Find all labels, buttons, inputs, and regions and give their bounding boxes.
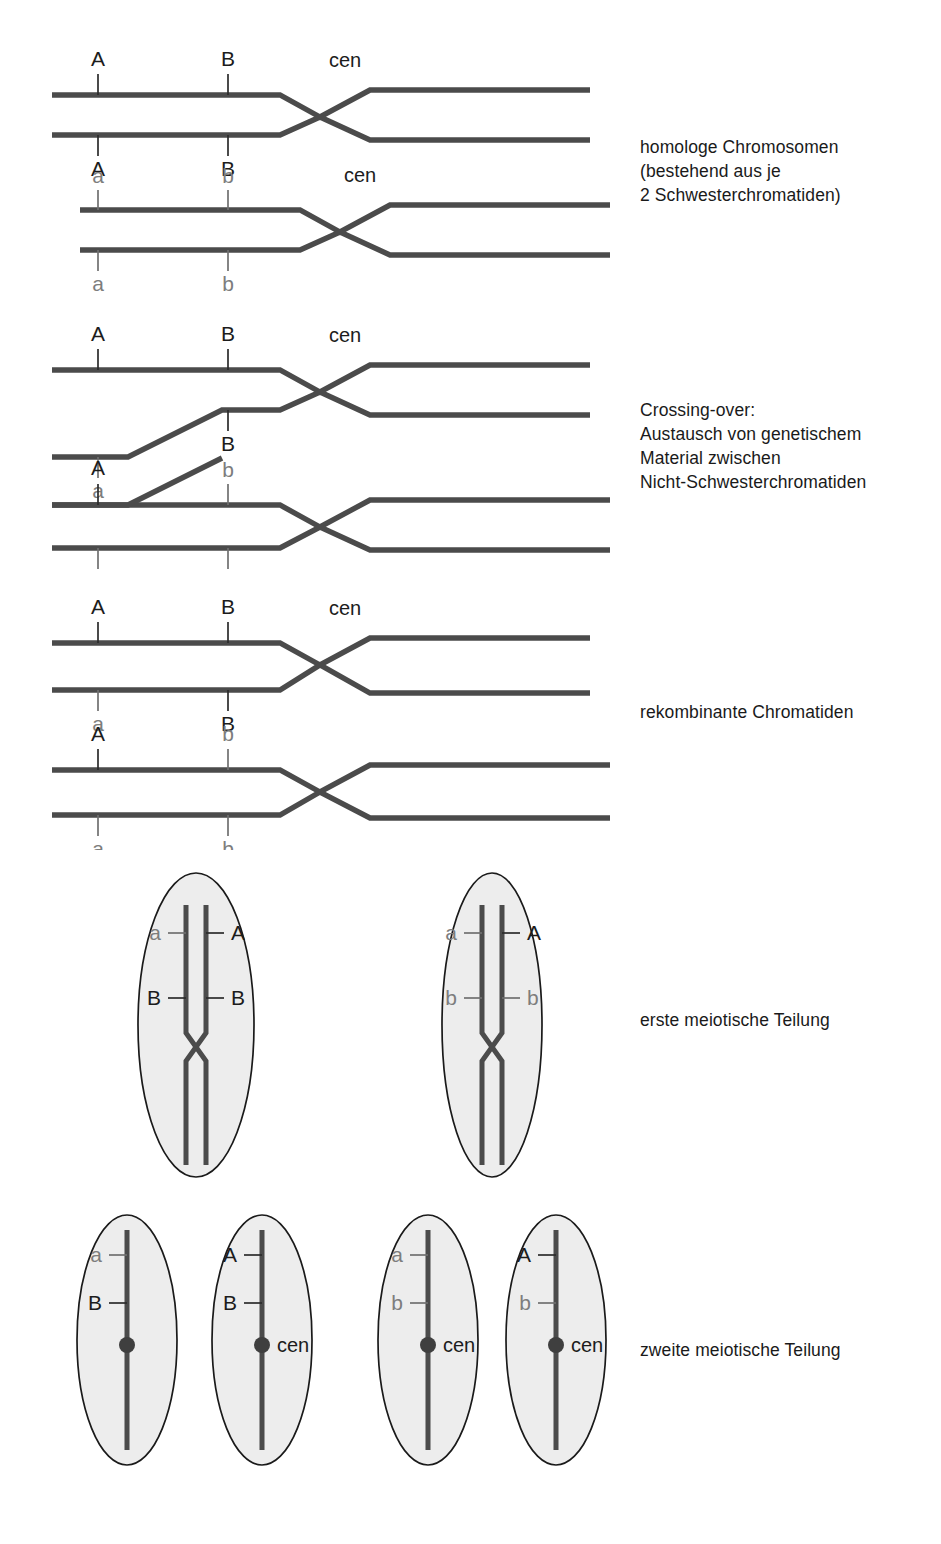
label-a-chromatid-4: a — [92, 837, 104, 850]
chromosome-2: a b a b cen — [80, 164, 610, 295]
label-cen: cen — [277, 1334, 309, 1356]
caption-first-meiotic-division: erste meiotische Teilung — [640, 1008, 940, 1032]
chromatid-2-recombinant — [52, 392, 590, 457]
chromosome-1: A B a B cen — [52, 595, 590, 735]
gamete-1: a B — [77, 1215, 177, 1465]
label-b: b — [519, 1291, 531, 1314]
label-b-chromatid-4: b — [222, 272, 234, 295]
label-a-left: a — [149, 921, 161, 944]
chromatid-3 — [52, 765, 610, 792]
label-A-right: A — [527, 921, 541, 944]
cell-1: a A B B — [138, 873, 254, 1177]
caption-recombinant-chromatids: rekombinante Chromatiden — [640, 700, 940, 724]
label-b-chromatid-4: b — [222, 837, 234, 850]
caption-second-meiotic-division: zweite meiotische Teilung — [640, 1338, 940, 1362]
label-B: B — [223, 1291, 237, 1314]
label-A-chromatid-1: A — [91, 47, 105, 70]
chromatid-2 — [52, 117, 590, 140]
chromatid-4 — [80, 232, 610, 255]
label-a: a — [391, 1243, 403, 1266]
label-cen: cen — [443, 1334, 475, 1356]
gamete-4: A b cen — [506, 1215, 606, 1465]
label-a-chromatid-4: a — [92, 272, 104, 295]
label-cen-chromosome-1: cen — [329, 597, 361, 619]
chromosome-2: A b a b — [52, 722, 610, 850]
label-a-chromatid-3: a — [92, 164, 104, 187]
label-B-left: B — [147, 986, 161, 1009]
label-A: A — [517, 1243, 531, 1266]
chromatid-3 — [80, 205, 610, 232]
label-b-chromatid-3: b — [222, 722, 234, 745]
label-A-chromatid-3: A — [91, 456, 105, 479]
label-B-chromatid-1: B — [221, 47, 235, 70]
cell-2: a A b b — [442, 873, 542, 1177]
chromatid-1 — [52, 638, 590, 665]
centromere-dot — [420, 1337, 436, 1353]
chromatid-3-crossing-arm — [52, 458, 222, 505]
label-A-right: A — [231, 921, 245, 944]
label-a-left: a — [445, 921, 457, 944]
chromosome-2: A b — [52, 456, 610, 569]
stage-recombinant-chromatids: A B a B cen A b a b — [0, 590, 620, 850]
cell-membrane — [442, 873, 542, 1177]
label-cen-chromosome-2: cen — [344, 164, 376, 186]
chromatid-4 — [52, 792, 610, 818]
label-cen: cen — [571, 1334, 603, 1356]
chromatid-4 — [52, 527, 610, 550]
centromere-dot — [548, 1337, 564, 1353]
stage-homologous-chromosomes: A B A B cen a b a b cen — [0, 40, 620, 300]
label-B-right: B — [231, 986, 245, 1009]
label-A-chromatid-1: A — [91, 322, 105, 345]
meiosis-diagram: A B A B cen a b a b cen homologe Chromos… — [0, 0, 941, 1544]
chromosome-1: A B A B cen — [52, 47, 590, 180]
label-B: B — [88, 1291, 102, 1314]
stage-second-meiotic-division: a B A B cen a b cen — [0, 1205, 620, 1475]
label-b-left: b — [445, 986, 457, 1009]
label-B-chromatid-2: B — [221, 432, 235, 455]
label-A-chromatid-1: A — [91, 595, 105, 618]
label-A-chromatid-3: A — [91, 722, 105, 745]
caption-homologous-chromosomes: homologe Chromosomen (bestehend aus je 2… — [640, 135, 930, 207]
stage-crossing-over: A B a B cen A b — [0, 320, 620, 570]
stage-first-meiotic-division: a A B B a A b b — [0, 865, 620, 1185]
label-B-chromatid-1: B — [221, 322, 235, 345]
label-b-right: b — [527, 986, 539, 1009]
chromosome-1: A B a B cen — [52, 322, 590, 502]
label-cen-chromosome-1: cen — [329, 324, 361, 346]
chromatid-2 — [52, 665, 590, 693]
caption-crossing-over: Crossing-over: Austausch von genetischem… — [640, 398, 940, 494]
cell-membrane — [138, 873, 254, 1177]
chromatid-1 — [52, 90, 590, 117]
label-a: a — [90, 1243, 102, 1266]
gamete-2: A B cen — [212, 1215, 312, 1465]
centromere-dot — [254, 1337, 270, 1353]
label-b: b — [391, 1291, 403, 1314]
label-b-chromatid-3: b — [222, 458, 234, 481]
gamete-3: a b cen — [378, 1215, 478, 1465]
label-b-chromatid-3: b — [222, 164, 234, 187]
label-A: A — [223, 1243, 237, 1266]
label-B-chromatid-1: B — [221, 595, 235, 618]
label-cen-chromosome-1: cen — [329, 49, 361, 71]
chromatid-1 — [52, 365, 590, 392]
centromere-dot — [119, 1337, 135, 1353]
